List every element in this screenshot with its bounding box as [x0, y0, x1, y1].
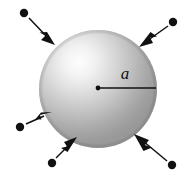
arrow-head-icon: [134, 134, 152, 151]
arrow-top-right: [139, 18, 177, 47]
figure-container: a: [0, 0, 193, 183]
radius-label: a: [121, 64, 130, 83]
arrow-bottom-left: [48, 137, 77, 167]
arrow-top-left: [20, 9, 55, 45]
arrow-shaft: [26, 116, 44, 124]
arrow-source-dot: [169, 18, 177, 26]
arrow-head-icon: [40, 32, 56, 45]
sphere-center-dot: [96, 86, 101, 91]
arrow-source-dot: [48, 159, 56, 167]
arrow-source-dot: [16, 123, 24, 131]
arrow-source-dot: [168, 161, 176, 169]
arrow-bottom-right: [134, 134, 176, 169]
arrow-shaft: [143, 141, 167, 161]
arrow-source-dot: [20, 9, 28, 17]
physics-diagram-svg: a: [0, 0, 193, 183]
arrow-head-icon: [139, 32, 157, 47]
